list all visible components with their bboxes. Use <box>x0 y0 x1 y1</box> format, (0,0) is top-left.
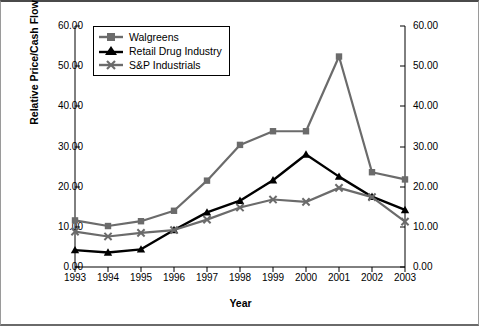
legend-item-sp-industrials[interactable]: S&P Industrials <box>98 58 222 72</box>
data-point <box>237 142 243 148</box>
data-point <box>303 128 309 134</box>
legend-label-sp-industrials: S&P Industrials <box>129 59 201 71</box>
legend-label-retail-drug-industry: Retail Drug Industry <box>129 45 222 57</box>
data-point <box>105 223 111 229</box>
data-point <box>402 176 408 182</box>
data-point <box>72 217 78 223</box>
data-series-layer <box>71 53 409 255</box>
triangle-marker-icon <box>98 45 124 57</box>
cross-marker-icon <box>98 59 124 71</box>
data-point <box>369 169 375 175</box>
data-point <box>138 218 144 224</box>
legend-item-retail-drug-industry[interactable]: Retail Drug Industry <box>98 44 222 58</box>
series-s-p-industrials <box>71 184 408 240</box>
series-line <box>75 188 405 237</box>
x-axis-ticks <box>75 267 405 272</box>
series-retail-drug-industry <box>71 150 409 255</box>
chart-figure: Relative Price/Cash Flow Ratio Year 60.0… <box>0 0 479 326</box>
chart-legend: Walgreens Retail Drug Industry S&P Indus… <box>93 26 230 76</box>
legend-item-walgreens[interactable]: Walgreens <box>98 30 222 44</box>
y-axis-ticks-right <box>400 26 405 267</box>
plot-area <box>1 2 479 326</box>
legend-label-walgreens: Walgreens <box>129 31 179 43</box>
data-point <box>302 150 310 157</box>
square-marker-icon <box>98 31 124 43</box>
data-point <box>171 208 177 214</box>
data-point <box>270 128 276 134</box>
data-point <box>336 53 342 59</box>
data-point <box>204 177 210 183</box>
